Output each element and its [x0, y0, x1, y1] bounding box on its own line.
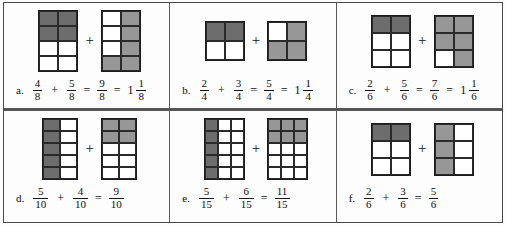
empty-cell [231, 119, 244, 131]
problem-row-bottom: +d.510+410=910+e.515+615=1115+f.26+36=56 [4, 111, 502, 222]
mixed-fraction-c-denominator: 6 [469, 90, 479, 103]
model-plus-sign: + [85, 33, 93, 50]
shaded-cell [43, 155, 60, 167]
problem-label-c: c. [349, 84, 357, 96]
addend-two-a-denominator: 8 [67, 90, 77, 103]
addend-two-b-denominator: 4 [234, 90, 244, 103]
empty-cell [218, 119, 231, 131]
equation-d: d.510+410=910 [4, 186, 169, 210]
empty-cell [218, 155, 231, 167]
fraction-model-first-c [371, 15, 411, 68]
empty-cell [231, 155, 244, 167]
addend-one-b-numerator: 2 [200, 78, 210, 90]
mixed-fraction-a-numerator: 1 [136, 78, 146, 90]
fraction-models-a: + [38, 8, 140, 74]
shaded-cell [102, 56, 121, 71]
fraction-model-first-f [371, 123, 411, 176]
sum-f-denominator: 6 [429, 198, 439, 211]
model-plus-sign: + [418, 33, 426, 50]
empty-cell [102, 41, 121, 56]
problem-panel-a: +a.48+58=98=118 [4, 3, 169, 108]
empty-cell [391, 158, 410, 175]
empty-cell [102, 167, 119, 179]
shaded-cell [121, 11, 140, 26]
equation-equals-sign-second: = [114, 83, 121, 98]
shaded-cell [287, 22, 306, 41]
shaded-cell [43, 131, 60, 143]
empty-cell [39, 56, 58, 71]
mixed-fraction-c-numerator: 1 [469, 78, 479, 90]
empty-cell [372, 141, 391, 158]
addend-two-e-denominator: 15 [239, 198, 254, 211]
shaded-cell [205, 119, 218, 131]
empty-cell [391, 50, 410, 67]
addend-one-f-denominator: 6 [364, 198, 374, 211]
addend-two-b: 34 [234, 78, 244, 102]
shaded-cell [294, 119, 307, 131]
empty-cell [58, 41, 77, 56]
sum-a: 98 [97, 78, 107, 102]
fraction-model-second-e [267, 118, 308, 180]
shaded-cell [391, 124, 410, 141]
equation-plus-sign: + [223, 191, 230, 206]
equation-c: c.26+56=76=116 [337, 78, 502, 102]
empty-cell [206, 41, 225, 60]
addend-one-d-numerator: 5 [36, 186, 46, 198]
shaded-cell [205, 131, 218, 143]
fraction-models-e: + [204, 116, 308, 182]
empty-cell [454, 158, 473, 175]
empty-cell [231, 131, 244, 143]
shaded-cell [225, 22, 244, 41]
shaded-cell [281, 131, 294, 143]
empty-cell [39, 41, 58, 56]
sum-d-denominator: 10 [109, 198, 124, 211]
addend-one-c-denominator: 6 [365, 90, 375, 103]
empty-cell [218, 143, 231, 155]
addend-two-b-numerator: 3 [234, 78, 244, 90]
shaded-cell [435, 158, 454, 175]
sum-c-numerator: 7 [430, 78, 440, 90]
problem-panel-f: +f.26+36=56 [336, 111, 502, 222]
addend-one-c-numerator: 2 [365, 78, 375, 90]
addend-two-f: 36 [398, 186, 408, 210]
problem-label-b: b. [182, 84, 190, 96]
fraction-models-b: + [205, 8, 307, 74]
shaded-cell [372, 124, 391, 141]
empty-cell [372, 158, 391, 175]
addend-one-b: 24 [200, 78, 210, 102]
addend-two-f-denominator: 6 [398, 198, 408, 211]
empty-cell [119, 155, 136, 167]
fraction-models-c: + [371, 8, 473, 74]
mixed-fraction-b: 14 [303, 78, 313, 102]
addend-two-c-numerator: 5 [400, 78, 410, 90]
mixed-fraction-a-denominator: 8 [136, 90, 146, 103]
fraction-model-second-d [101, 118, 137, 180]
equation-plus-sign: + [51, 83, 58, 98]
addend-two-a: 58 [67, 78, 77, 102]
empty-cell [102, 26, 121, 41]
shaded-cell [119, 131, 136, 143]
shaded-cell [102, 131, 119, 143]
equation-plus-sign: + [57, 191, 64, 206]
shaded-cell [205, 167, 218, 179]
problem-label-e: e. [182, 192, 190, 204]
sum-b: 54 [264, 78, 274, 102]
problem-grid: +a.48+58=98=118+b.24+34=54=114+c.26+56=7… [4, 3, 502, 222]
sum-a-numerator: 9 [97, 78, 107, 90]
empty-cell [391, 141, 410, 158]
empty-cell [102, 11, 121, 26]
equation-a: a.48+58=98=118 [4, 78, 169, 102]
shaded-cell [435, 141, 454, 158]
shaded-cell [205, 143, 218, 155]
model-plus-sign: + [252, 33, 260, 50]
fraction-model-second-a [101, 10, 141, 72]
sum-e-denominator: 15 [275, 198, 290, 211]
shaded-cell [58, 11, 77, 26]
empty-cell [372, 50, 391, 67]
mixed-number-b: 114 [294, 78, 313, 102]
empty-cell [60, 131, 77, 143]
equation-f: f.26+36=56 [337, 186, 502, 210]
equation-b: b.24+34=54=114 [170, 78, 335, 102]
addend-one-f: 26 [364, 186, 374, 210]
addend-one-d-denominator: 10 [33, 198, 48, 211]
